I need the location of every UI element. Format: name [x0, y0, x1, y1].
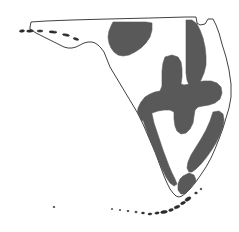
- map-canvas: [0, 0, 239, 232]
- key-island-13: [195, 192, 198, 194]
- key-island-9: [127, 210, 129, 211]
- key-island-8: [135, 211, 138, 213]
- key-island-10: [119, 209, 121, 210]
- key-island-12: [53, 206, 55, 207]
- barrier-island-2: [37, 30, 43, 32]
- key-island-7: [141, 212, 144, 214]
- key-island-11: [111, 208, 113, 209]
- key-island-6: [148, 213, 152, 215]
- florida-range-map: [0, 0, 239, 232]
- barrier-island-1: [27, 30, 34, 33]
- key-island-5: [155, 212, 160, 215]
- key-island-14: [200, 188, 202, 190]
